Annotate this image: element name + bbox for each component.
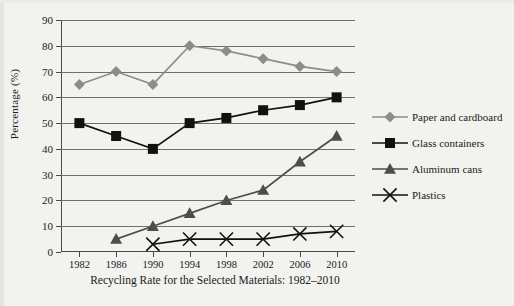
- x-axis-tick-label: 2006: [289, 259, 310, 270]
- data-point-marker: [258, 53, 269, 64]
- figure-page: Percentage (%) 0102030405060708090 19821…: [0, 0, 514, 306]
- x-axis-tick: [226, 252, 227, 257]
- data-series: [146, 225, 343, 251]
- data-point-marker: [148, 144, 158, 154]
- data-series: [110, 130, 343, 244]
- legend-item[interactable]: Glass containers: [370, 130, 512, 156]
- y-axis-tick-label: 10: [42, 221, 53, 232]
- line-chart-figure: Percentage (%) 0102030405060708090 19821…: [0, 0, 514, 306]
- data-point-marker: [74, 79, 85, 90]
- data-point-marker: [74, 118, 84, 128]
- y-axis-tick-label: 60: [42, 92, 53, 103]
- legend-marker-triangle-icon: [370, 159, 410, 179]
- series-layer: [61, 20, 355, 252]
- legend-item-label: Aluminum cans: [410, 163, 482, 175]
- y-axis-tick-label: 90: [42, 15, 53, 26]
- y-axis-tick: [56, 252, 61, 253]
- legend-item-label: Glass containers: [410, 137, 484, 149]
- x-axis-tick-label: 2010: [326, 259, 347, 270]
- data-series: [74, 40, 342, 90]
- y-axis-tick-label: 40: [42, 143, 53, 154]
- legend-item[interactable]: Aluminum cans: [370, 156, 512, 182]
- series-line: [153, 231, 337, 244]
- legend-item[interactable]: Paper and cardboard: [370, 104, 512, 130]
- legend-marker-cross-icon: [370, 185, 410, 205]
- x-axis-tick-label: 1986: [106, 259, 127, 270]
- data-point-marker: [111, 131, 121, 141]
- legend-item-label: Plastics: [410, 189, 446, 201]
- x-axis-tick-label: 1994: [179, 259, 200, 270]
- data-point-marker: [295, 100, 305, 110]
- data-point-marker: [221, 113, 231, 123]
- y-axis-tick-label: 30: [42, 169, 53, 180]
- y-axis-tick-label: 70: [42, 66, 53, 77]
- x-axis-tick-label: 1982: [69, 259, 90, 270]
- y-axis-title: Percentage (%): [8, 69, 20, 139]
- data-point-marker: [332, 92, 342, 102]
- data-point-marker: [221, 45, 232, 56]
- y-axis-tick-label: 50: [42, 118, 53, 129]
- plot-area: 0102030405060708090 19821986199019941998…: [61, 20, 355, 252]
- figure-caption: Recycling Rate for the Selected Material…: [0, 274, 430, 286]
- x-axis-tick: [337, 252, 338, 257]
- x-axis-tick: [263, 252, 264, 257]
- y-axis-tick-label: 0: [48, 247, 54, 258]
- x-axis-tick-label: 1998: [216, 259, 237, 270]
- legend-item[interactable]: Plastics: [370, 182, 512, 208]
- x-axis-tick-label: 1990: [142, 259, 163, 270]
- data-point-marker: [294, 156, 306, 167]
- x-axis-tick: [153, 252, 154, 257]
- data-point-marker: [331, 66, 342, 77]
- data-point-marker: [185, 118, 195, 128]
- chart-legend: Paper and cardboardGlass containersAlumi…: [370, 104, 512, 208]
- y-axis-tick-label: 80: [42, 40, 53, 51]
- data-point-marker: [257, 184, 269, 195]
- x-axis-tick: [79, 252, 80, 257]
- x-axis-tick-label: 2002: [253, 259, 274, 270]
- legend-marker-diamond-icon: [370, 107, 410, 127]
- data-point-marker: [258, 105, 268, 115]
- y-axis-tick-label: 20: [42, 195, 53, 206]
- data-point-marker: [111, 66, 122, 77]
- data-series: [74, 92, 341, 154]
- legend-item-label: Paper and cardboard: [410, 111, 502, 123]
- x-axis-tick: [300, 252, 301, 257]
- legend-marker-square-icon: [370, 133, 410, 153]
- data-point-marker: [331, 130, 343, 141]
- data-point-marker: [294, 61, 305, 72]
- x-axis-tick: [190, 252, 191, 257]
- x-axis-tick: [116, 252, 117, 257]
